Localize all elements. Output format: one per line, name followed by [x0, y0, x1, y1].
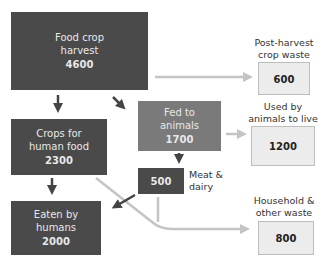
label-line2: dairy [189, 181, 223, 193]
node-value: 1700 [166, 133, 194, 146]
node-label-line1: Fed to [164, 106, 195, 119]
node-label-line2: humans [36, 221, 76, 234]
node-label-line2: animals [160, 119, 199, 132]
node-household-waste: 800 [258, 221, 314, 255]
node-value: 600 [274, 73, 295, 86]
node-eaten-by-humans: Eaten by humans 2000 [11, 201, 101, 255]
node-value: 2300 [45, 154, 73, 167]
label-line2: crop waste [244, 49, 324, 61]
node-crops-for-human-food: Crops for human food 2300 [11, 119, 107, 175]
node-value: 1200 [269, 140, 297, 153]
node-label-line1: Food crop [55, 31, 104, 44]
node-fed-to-animals: Fed to animals 1700 [138, 101, 221, 151]
node-label-line1: Eaten by [34, 208, 78, 221]
node-value: 4600 [66, 58, 94, 71]
used-by-animals-label: Used by animals to live [242, 101, 324, 125]
meat-dairy-label: Meat & dairy [189, 169, 223, 193]
node-food-crop-harvest: Food crop harvest 4600 [11, 12, 148, 90]
node-meat-dairy: 500 [138, 168, 184, 194]
node-value: 2000 [42, 235, 70, 248]
label-line2: other waste [244, 207, 324, 219]
node-value: 800 [276, 232, 297, 245]
label-line2: animals to live [242, 113, 324, 125]
node-value: 500 [151, 175, 172, 188]
label-line1: Used by [242, 101, 324, 113]
label-line1: Post-harvest [244, 37, 324, 49]
arrow-harvest-to-animals [113, 97, 122, 106]
node-label-line1: Crops for [36, 127, 81, 140]
label-line1: Meat & [189, 169, 223, 181]
post-harvest-waste-label: Post-harvest crop waste [244, 37, 324, 61]
label-line1: Household & [244, 195, 324, 207]
node-post-harvest-waste: 600 [258, 62, 310, 95]
node-used-by-animals: 1200 [251, 126, 315, 166]
household-waste-label: Household & other waste [244, 195, 324, 219]
node-label-line2: harvest [61, 44, 99, 57]
node-label-line2: human food [29, 140, 89, 153]
